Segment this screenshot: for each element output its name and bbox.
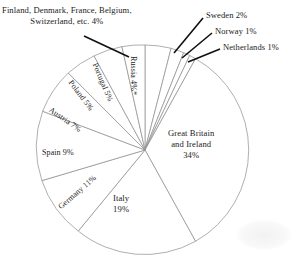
slice-label-great-britain-and-ireland: Great Britain and Ireland 34% <box>168 128 214 162</box>
slice-label-spain: Spain 9% <box>42 149 74 158</box>
slice-label-italy: Italy 19% <box>113 193 129 215</box>
slice-label-italy-line2: 19% <box>113 204 129 215</box>
slice-label-russia: Russia 4%* <box>128 56 137 95</box>
slice-label-norway: Norway 1% <box>215 27 257 37</box>
slice-label-gb-line3: 34% <box>168 150 214 161</box>
pie-chart-figure: Finland, Denmark, France, Belgium, Switz… <box>0 0 297 256</box>
slice-label-sweden: Sweden 2% <box>206 11 247 21</box>
slice-label-finland-group: Finland, Denmark, France, Belgium, Switz… <box>2 5 132 26</box>
slice-label-finland-group-line1: Finland, Denmark, France, Belgium, <box>2 5 132 16</box>
slice-label-finland-group-line2: Switzerland, etc. 4% <box>2 16 132 27</box>
leader-line-sweden <box>174 18 203 53</box>
slice-label-gb-line2: and Ireland <box>168 139 214 150</box>
leader-line-netherlands <box>188 49 220 62</box>
slice-label-gb-line1: Great Britain <box>168 128 214 139</box>
pie-chart-canvas <box>0 0 297 256</box>
slice-label-italy-line1: Italy <box>113 193 129 204</box>
slice-label-netherlands: Netherlands 1% <box>223 43 279 53</box>
